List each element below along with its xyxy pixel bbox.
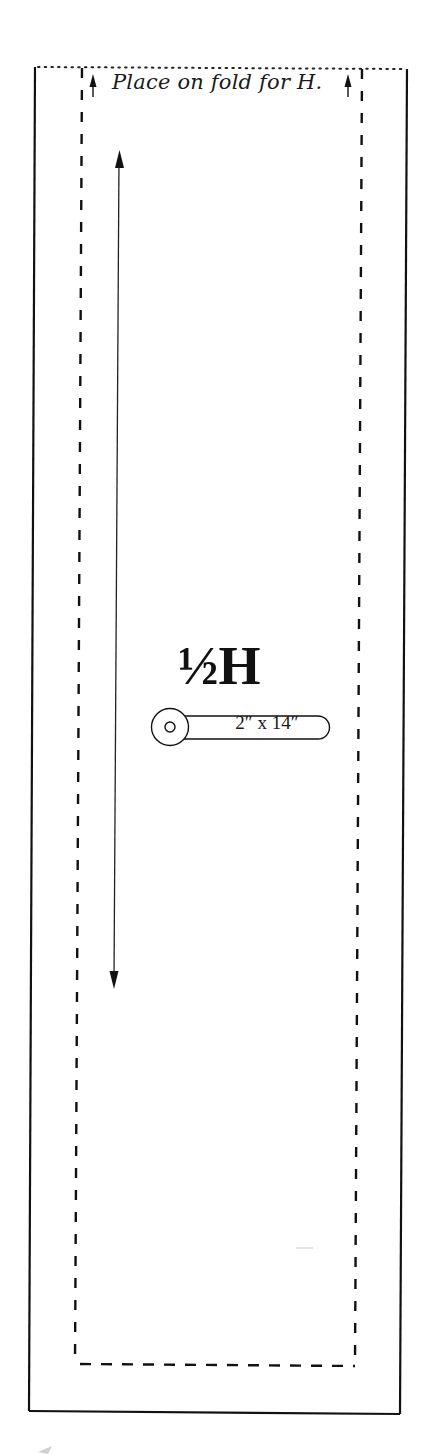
- smudge-mark: [38, 1446, 52, 1454]
- grainline-arrow-icon: [110, 150, 125, 989]
- cut-size-label: 2″ x 14″: [212, 712, 322, 734]
- fold-instruction: Place on fold for H.: [112, 70, 332, 94]
- fold-arrow-right-icon: [345, 74, 352, 97]
- outer-cut-border: [29, 67, 407, 1414]
- fold-arrow-left-icon: [90, 74, 97, 97]
- piece-name: ½H: [178, 636, 298, 696]
- pattern-page: Place on fold for H. ½H 2″ x 14″: [0, 0, 433, 1454]
- fold-line: [38, 67, 404, 69]
